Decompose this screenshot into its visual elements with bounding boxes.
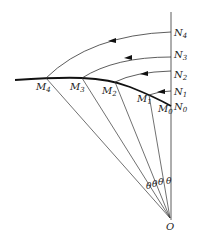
arc-n3-m3 [82, 57, 171, 78]
arc-n2-m2 [115, 71, 171, 82]
arc-n4-m4 [46, 32, 171, 78]
label-m2: M2 [101, 85, 117, 98]
label-origin: O [166, 221, 174, 232]
label-theta-3: θ [158, 177, 164, 187]
arrow-icon [108, 38, 116, 43]
label-n1: N1 [173, 86, 187, 99]
diagram: N4 N3 N2 N1 N0 M4 M3 M2 M1 M0 θ θ θ θ O [0, 0, 198, 243]
label-n0: N0 [173, 101, 188, 114]
label-m3: M3 [69, 81, 85, 94]
label-m4: M4 [35, 81, 51, 94]
involute-diagram: N4 N3 N2 N1 N0 M4 M3 M2 M1 M0 θ θ θ θ O [0, 0, 198, 243]
label-theta-4: θ [166, 176, 172, 186]
label-n3: N3 [173, 49, 188, 62]
arrow-icon [157, 89, 165, 94]
label-n4: N4 [173, 27, 187, 40]
arrow-icon [124, 55, 132, 60]
label-n2: N2 [173, 69, 188, 82]
